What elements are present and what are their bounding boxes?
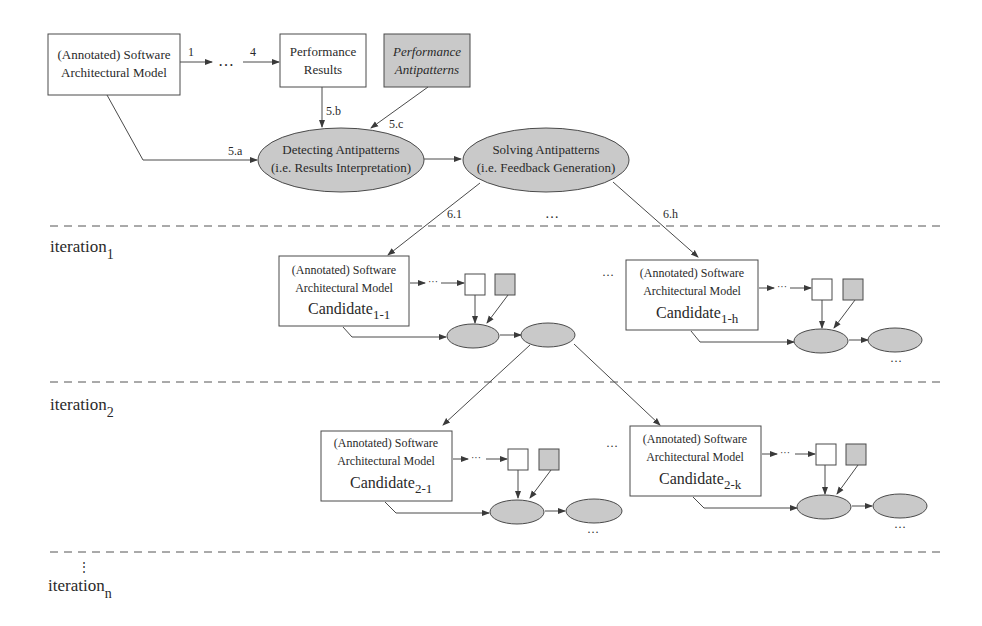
c11-results-box	[465, 274, 485, 295]
antipatterns-line1: Performance	[392, 44, 461, 59]
c21-antipatterns-box	[539, 449, 559, 470]
vertical-ellipsis: ⋮	[78, 560, 90, 574]
results-line1: Performance	[290, 44, 357, 59]
c2k-results-box	[816, 444, 836, 465]
c2k-arrow-to-detect	[693, 497, 797, 508]
c1h-arrow-diag	[834, 300, 855, 328]
solving-antipatterns-ellipse: Solving Antipatterns (i.e. Feedback Gene…	[463, 128, 629, 192]
c11-detect-ellipse	[447, 324, 499, 348]
step-label-5b: 5.b	[326, 104, 341, 118]
detecting-antipatterns-ellipse: Detecting Antipatterns (i.e. Results Int…	[258, 128, 424, 192]
c2k-leading-dots: …	[606, 436, 618, 450]
steps-ellipsis: …	[218, 52, 234, 69]
step-label-5c: 5.c	[389, 117, 403, 131]
iteration-label-1: iteration1	[50, 237, 114, 262]
model-box: (Annotated) Software Architectural Model	[48, 34, 180, 95]
c1h-results-box	[812, 279, 832, 300]
candidate-1-1-line2: Architectural Model	[295, 281, 393, 295]
c21-detect-ellipse	[490, 500, 544, 524]
c2k-solve-ellipse	[873, 494, 927, 518]
c21-trailing-dots: …	[587, 522, 599, 536]
step-label-6-1: 6.1	[447, 207, 462, 221]
step-label-4: 4	[250, 45, 256, 59]
diagram-canvas: (Annotated) Software Architectural Model…	[0, 0, 982, 626]
performance-results-box: Performance Results	[280, 34, 366, 87]
step-label-6-h: 6.h	[663, 207, 678, 221]
candidates-ellipsis: …	[545, 206, 559, 221]
c21-solve-ellipse	[566, 499, 622, 523]
c1h-leading-dots: …	[602, 265, 614, 279]
detecting-line1: Detecting Antipatterns	[282, 142, 399, 157]
c21-dots: ···	[471, 452, 481, 463]
solving-line2: (i.e. Feedback Generation)	[477, 160, 616, 175]
c11-antipatterns-box	[495, 274, 515, 295]
candidate-2-k-line2: Architectural Model	[646, 450, 744, 464]
candidate-2-k: (Annotated) Software Architectural Model…	[630, 426, 761, 496]
detecting-line2: (i.e. Results Interpretation)	[271, 160, 411, 175]
candidate-1-1: (Annotated) Software Architectural Model…	[279, 256, 409, 326]
performance-antipatterns-box: Performance Antipatterns	[384, 34, 470, 87]
iteration-label-n: iterationn	[48, 576, 112, 601]
model-box-line1: (Annotated) Software	[58, 47, 171, 62]
c2k-antipatterns-box	[846, 444, 866, 465]
candidate-2-1: (Annotated) Software Architectural Model…	[321, 431, 452, 501]
candidate-1-h-line1: (Annotated) Software	[640, 266, 744, 280]
arrow-to-candidate-2-1	[443, 345, 530, 425]
arrow-6-1	[388, 183, 480, 255]
c11-solve-ellipse	[521, 323, 575, 347]
step-label-5a: 5.a	[228, 144, 243, 158]
solving-line1: Solving Antipatterns	[492, 142, 599, 157]
candidate-2-1-line1: (Annotated) Software	[334, 436, 438, 450]
c1h-trailing-dots: …	[890, 351, 902, 365]
iteration-label-2: iteration2	[50, 395, 114, 420]
arrow-6-h	[613, 182, 698, 257]
c2k-trailing-dots: …	[894, 517, 906, 531]
candidate-1-1-line1: (Annotated) Software	[292, 263, 396, 277]
candidate-1-h-line2: Architectural Model	[643, 284, 741, 298]
candidate-2-k-line1: (Annotated) Software	[643, 432, 747, 446]
antipatterns-line2: Antipatterns	[394, 62, 459, 77]
results-line2: Results	[304, 62, 342, 77]
c11-dots: ···	[428, 276, 438, 287]
c11-arrow-to-detect	[343, 327, 446, 337]
candidate-2-1-line2: Architectural Model	[337, 454, 435, 468]
c1h-detect-ellipse	[794, 329, 848, 353]
c21-arrow-to-detect	[385, 502, 489, 513]
arrow-to-candidate-2-k	[574, 344, 660, 425]
c1h-solve-ellipse	[868, 328, 922, 352]
c1h-arrow-to-detect	[691, 331, 794, 342]
c2k-arrow-diag	[837, 465, 858, 494]
c2k-dots: ···	[780, 447, 790, 458]
model-box-line2: Architectural Model	[61, 65, 167, 80]
c21-arrow-diag	[530, 470, 551, 498]
c1h-antipatterns-box	[843, 279, 863, 300]
c21-results-box	[508, 449, 528, 470]
c2k-detect-ellipse	[797, 495, 851, 519]
c11-arrow-diag	[487, 295, 508, 323]
candidate-1-h: (Annotated) Software Architectural Model…	[626, 260, 758, 330]
c1h-dots: ···	[777, 281, 787, 292]
step-label-1: 1	[188, 45, 194, 59]
